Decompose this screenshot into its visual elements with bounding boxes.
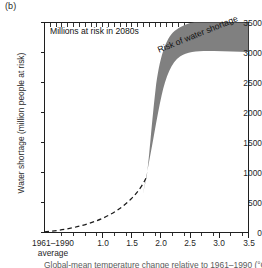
y-axis-ticks	[41, 23, 45, 233]
x-tick-label-1-0: 1.0	[88, 239, 118, 249]
y-tick-label-2500: 2500	[226, 79, 262, 87]
x-tick-label-3-0: 3.0	[204, 239, 234, 249]
y-tick-label-2000: 2000	[226, 109, 262, 117]
axis-frame	[45, 23, 249, 233]
y-tick-label-0: 0	[226, 229, 262, 237]
x-tick-label-baseline: 1961–1990 average	[17, 239, 89, 258]
chart-title: Millions at risk in 2080s	[50, 26, 139, 36]
y-tick-label-1000: 1000	[226, 169, 262, 177]
y-tick-label-500: 500	[226, 199, 262, 207]
x-axis-label: Global-mean temperature change relative …	[44, 260, 262, 268]
y-tick-label-3000: 3000	[226, 49, 262, 57]
plot-area	[0, 0, 262, 268]
figure-panel-b: (b) Water shortage (million people at ri…	[0, 0, 262, 268]
x-tick-label-3-5: 3.5	[234, 239, 262, 249]
dashed-projection-curve	[45, 178, 147, 232]
x-tick-label-2-5: 2.5	[175, 239, 205, 249]
x-tick-label-baseline-line2: average	[17, 249, 89, 259]
x-tick-label-1-5: 1.5	[117, 239, 147, 249]
y-tick-label-1500: 1500	[226, 139, 262, 147]
x-tick-label-2-0: 2.0	[146, 239, 176, 249]
